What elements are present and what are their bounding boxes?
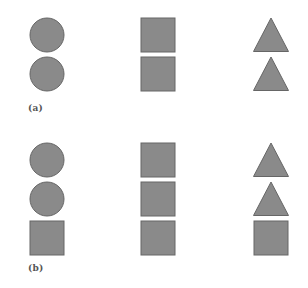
circle-shape bbox=[30, 143, 64, 177]
square-shape bbox=[141, 143, 175, 177]
triangle-shape bbox=[254, 57, 289, 91]
square-shape bbox=[141, 182, 175, 216]
circle-shape bbox=[30, 18, 64, 52]
square-shape bbox=[141, 18, 175, 52]
circle-shape bbox=[30, 57, 64, 91]
triangle-shape bbox=[254, 182, 289, 216]
square-shape bbox=[30, 221, 64, 255]
panel-label-b: (b) bbox=[28, 263, 43, 273]
panel-label-a: (a) bbox=[28, 103, 43, 113]
panel-b bbox=[30, 143, 289, 255]
panel-a bbox=[30, 18, 289, 91]
square-shape bbox=[254, 221, 288, 255]
square-shape bbox=[141, 57, 175, 91]
square-shape bbox=[141, 221, 175, 255]
triangle-shape bbox=[254, 18, 289, 52]
triangle-shape bbox=[254, 143, 289, 177]
circle-shape bbox=[30, 182, 64, 216]
shapes-canvas bbox=[0, 0, 308, 288]
gestalt-similarity-figure: (a) (b) bbox=[0, 0, 308, 288]
